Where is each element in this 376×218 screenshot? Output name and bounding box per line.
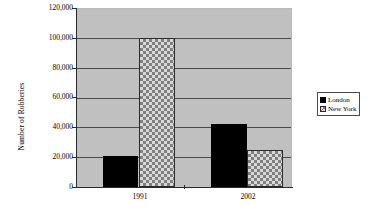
bar-newyork-2002 bbox=[247, 150, 283, 187]
x-tick-mark bbox=[184, 185, 185, 189]
y-tick-label: 80,000 bbox=[20, 64, 73, 72]
gridline bbox=[77, 38, 291, 39]
bar-london-2002 bbox=[211, 124, 247, 187]
legend-label-new-york: New York bbox=[328, 105, 356, 113]
gridline bbox=[77, 68, 291, 69]
y-axis-tick-labels: 120,000 100,000 80,000 60,000 40,000 20,… bbox=[20, 0, 73, 218]
bar-london-1991 bbox=[103, 156, 138, 187]
x-tick-label-2002: 2002 bbox=[218, 192, 278, 201]
legend-swatch-icon-new-york bbox=[320, 106, 326, 112]
y-tick-label: 20,000 bbox=[20, 153, 73, 161]
y-tick-label: 60,000 bbox=[20, 93, 73, 101]
y-tick-label: 0 bbox=[20, 183, 73, 191]
legend-swatch-icon-london bbox=[320, 97, 326, 103]
y-tick-label: 40,000 bbox=[20, 123, 73, 131]
bar-chart: Number of Robberies 120,000 100,000 80,0… bbox=[0, 0, 376, 218]
gridline bbox=[77, 127, 291, 128]
legend-item-new-york: New York bbox=[320, 104, 356, 113]
y-axis-line bbox=[76, 8, 77, 188]
legend-item-london: London bbox=[320, 95, 356, 104]
bar-newyork-1991 bbox=[139, 38, 175, 187]
y-tick-label: 120,000 bbox=[20, 4, 73, 12]
legend: London New York bbox=[317, 92, 360, 116]
y-tick-label: 100,000 bbox=[20, 34, 73, 42]
legend-label-london: London bbox=[328, 96, 350, 104]
gridline bbox=[77, 98, 291, 99]
plot-area bbox=[76, 8, 292, 187]
x-tick-label-1991: 1991 bbox=[110, 192, 170, 201]
